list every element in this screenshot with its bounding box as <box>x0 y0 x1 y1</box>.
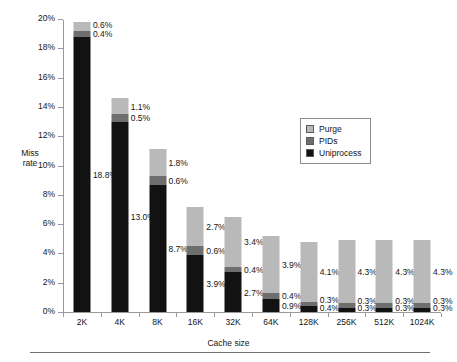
x-axis-tick-label: 32K <box>226 317 241 327</box>
bar-value-label-purge: 4.3% <box>358 268 377 277</box>
bar-segment-purge <box>111 98 128 114</box>
bar-value-label-uniprocess: 2.7% <box>244 289 263 298</box>
bar-segment-uniprocess <box>338 308 355 312</box>
bar-512k[interactable] <box>376 240 393 312</box>
x-axis-tick <box>328 313 329 317</box>
x-axis-tick-label: 4K <box>114 317 124 327</box>
bar-value-label-pids: 0.3% <box>433 297 452 306</box>
y-axis-tick-label: 12% <box>38 130 55 140</box>
plot-area: 0%2%4%6%8%10%12%14%16%18%20% 18.8%0.4%0.… <box>63 20 441 313</box>
bar-segment-uniprocess <box>73 37 90 312</box>
y-axis-tick: 8% <box>58 195 63 196</box>
bar-segment-purge <box>414 240 431 303</box>
x-axis-tick <box>403 313 404 317</box>
bar-segment-purge <box>187 207 204 247</box>
bar-segment-purge <box>149 149 166 175</box>
y-axis-line <box>63 20 64 313</box>
bar-value-label-uniprocess: 8.7% <box>169 245 188 254</box>
y-axis-tick-label: 14% <box>38 101 55 111</box>
bar-value-label-pids: 0.3% <box>358 297 377 306</box>
legend-label-uniprocess: Uniprocess <box>319 148 362 158</box>
bar-4k[interactable] <box>111 98 128 312</box>
bar-segment-uniprocess <box>376 308 393 312</box>
y-axis-tick: 2% <box>58 283 63 284</box>
bar-segment-purge <box>338 240 355 303</box>
x-axis-tick-label: 256K <box>337 317 357 327</box>
x-axis-tick <box>101 313 102 317</box>
legend-swatch-purge <box>306 125 314 133</box>
y-axis-tick: 6% <box>58 224 63 225</box>
x-axis-tick-label: 1024K <box>410 317 435 327</box>
x-axis-tick <box>441 313 442 317</box>
bar-32k[interactable] <box>225 217 242 312</box>
bar-128k[interactable] <box>300 242 317 312</box>
bar-2k[interactable] <box>73 22 90 312</box>
bar-value-label-uniprocess: 3.9% <box>206 280 225 289</box>
bar-value-label-pids: 0.4% <box>244 266 263 275</box>
x-axis-tick-label: 2K <box>77 317 87 327</box>
bar-value-label-uniprocess: 0.9% <box>282 302 301 311</box>
legend-swatch-pids <box>306 137 314 145</box>
x-axis-tick <box>365 313 366 317</box>
bar-segment-uniprocess <box>262 299 279 312</box>
legend-item-purge: Purge <box>306 123 362 135</box>
bar-value-label-purge: 4.3% <box>395 268 414 277</box>
bar-segment-uniprocess <box>187 255 204 312</box>
x-axis-tick-label: 128K <box>299 317 319 327</box>
y-axis-tick: 14% <box>58 107 63 108</box>
bar-256k[interactable] <box>338 240 355 312</box>
bar-value-label-pids: 0.5% <box>131 114 150 123</box>
bar-value-label-pids: 0.3% <box>395 297 414 306</box>
y-axis-tick-label: 0% <box>43 306 55 316</box>
bar-value-label-purge: 3.9% <box>282 261 301 270</box>
bar-segment-uniprocess <box>111 122 128 312</box>
bar-segment-purge <box>262 236 279 293</box>
y-axis-tick-label: 6% <box>43 218 55 228</box>
bar-value-label-purge: 0.6% <box>93 21 112 30</box>
bar-segment-uniprocess <box>149 185 166 312</box>
legend-swatch-uniprocess <box>306 149 314 157</box>
y-axis-tick-label: 20% <box>38 13 55 23</box>
bar-value-label-purge: 1.1% <box>131 103 150 112</box>
x-axis-tick <box>176 313 177 317</box>
bar-segment-purge <box>225 217 242 267</box>
y-axis-tick: 12% <box>58 136 63 137</box>
y-axis-tick-label: 16% <box>38 72 55 82</box>
x-axis-label: Cache size <box>0 338 457 348</box>
bar-64k[interactable] <box>262 236 279 312</box>
x-axis-tick-label: 512K <box>374 317 394 327</box>
bar-value-label-purge: 4.1% <box>320 268 339 277</box>
x-axis-tick <box>290 313 291 317</box>
y-axis-tick-label: 10% <box>38 160 55 170</box>
legend-label-purge: Purge <box>319 124 342 134</box>
bar-segment-purge <box>376 240 393 303</box>
bar-segment-pids <box>187 246 204 255</box>
legend: Purge PIDs Uniprocess <box>300 118 371 164</box>
y-axis-tick-label: 4% <box>43 247 55 257</box>
x-axis-tick <box>139 313 140 317</box>
bar-value-label-purge: 2.7% <box>206 223 225 232</box>
y-axis-tick-label: 8% <box>43 189 55 199</box>
bar-value-label-pids: 0.4% <box>93 30 112 39</box>
bar-value-label-purge: 1.8% <box>169 159 188 168</box>
y-axis-tick: 16% <box>58 78 63 79</box>
bar-16k[interactable] <box>187 207 204 312</box>
y-axis-tick: 20% <box>58 19 63 20</box>
bar-value-label-pids: 0.3% <box>320 296 339 305</box>
bar-1024k[interactable] <box>414 240 431 312</box>
bar-8k[interactable] <box>149 149 166 312</box>
x-axis-tick-label: 64K <box>263 317 278 327</box>
bar-segment-purge <box>73 22 90 31</box>
y-axis-tick-label: 2% <box>43 277 55 287</box>
bar-segment-pids <box>149 176 166 185</box>
chart-figure: Miss rate 0%2%4%6%8%10%12%14%16%18%20% 1… <box>0 0 457 362</box>
bar-value-label-pids: 0.6% <box>206 247 225 256</box>
footer-rule <box>30 352 430 353</box>
y-axis-tick-label: 18% <box>38 42 55 52</box>
legend-label-pids: PIDs <box>319 136 337 146</box>
x-axis-tick <box>252 313 253 317</box>
x-axis-tick-label: 16K <box>188 317 203 327</box>
bar-value-label-pids: 0.6% <box>169 177 188 186</box>
x-axis-tick <box>63 313 64 317</box>
y-axis-label-line-1: Miss <box>8 148 52 158</box>
